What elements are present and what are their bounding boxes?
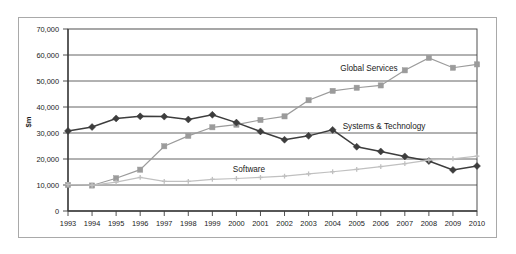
data-point — [185, 116, 192, 123]
data-point — [138, 167, 143, 172]
series-annotation: Systems & Technology — [343, 122, 427, 131]
x-tick-label: 2010 — [469, 219, 485, 228]
x-tick-label: 2008 — [421, 219, 437, 228]
data-point — [258, 117, 263, 122]
y-tick-label: 0 — [55, 207, 59, 216]
data-point — [282, 114, 287, 119]
data-point — [330, 88, 335, 93]
x-tick-label: 1994 — [84, 219, 100, 228]
y-tick-label: 40,000 — [36, 103, 59, 112]
data-point — [449, 166, 456, 173]
data-point — [306, 98, 311, 103]
series-annotation: Software — [233, 165, 266, 174]
x-tick-label: 2007 — [397, 219, 413, 228]
data-point — [210, 125, 215, 130]
data-point — [378, 83, 383, 88]
data-point — [162, 144, 167, 149]
plot-area-border — [68, 29, 477, 211]
x-tick-label: 1999 — [204, 219, 220, 228]
y-tick-label: 70,000 — [36, 25, 59, 34]
chart-figure: 010,00020,00030,00040,00050,00060,00070,… — [0, 0, 516, 254]
series-annotation: Global Services — [340, 64, 397, 73]
x-tick-label: 2000 — [228, 219, 244, 228]
x-tick-label: 1997 — [156, 219, 172, 228]
data-point — [450, 65, 455, 70]
x-tick-label: 2004 — [324, 219, 340, 228]
series-line — [68, 156, 477, 185]
data-point — [377, 148, 384, 155]
x-tick-label: 2003 — [300, 219, 316, 228]
line-chart: 010,00020,00030,00040,00050,00060,00070,… — [0, 0, 516, 254]
x-tick-label: 2005 — [348, 219, 364, 228]
x-tick-label: 1993 — [60, 219, 76, 228]
y-tick-label: 60,000 — [36, 51, 59, 60]
x-tick-label: 2002 — [276, 219, 292, 228]
y-tick-label: 20,000 — [36, 155, 59, 164]
y-tick-label: 30,000 — [36, 129, 59, 138]
data-point — [305, 132, 312, 139]
data-point — [426, 55, 431, 60]
y-tick-label: 10,000 — [36, 181, 59, 190]
x-tick-label: 1998 — [180, 219, 196, 228]
y-tick-label: 50,000 — [36, 77, 59, 86]
x-tick-label: 2006 — [373, 219, 389, 228]
data-point — [402, 68, 407, 73]
x-tick-label: 1996 — [132, 219, 148, 228]
x-tick-label: 2001 — [252, 219, 268, 228]
data-point — [209, 111, 216, 118]
data-point — [474, 62, 479, 67]
x-tick-label: 2009 — [445, 219, 461, 228]
data-point — [257, 128, 264, 135]
x-tick-label: 1995 — [108, 219, 124, 228]
data-point — [113, 115, 120, 122]
data-point — [186, 133, 191, 138]
data-point — [137, 113, 144, 120]
data-point — [161, 113, 168, 120]
series-systems-technology — [65, 111, 481, 173]
data-point — [474, 163, 481, 170]
y-axis-title: $m — [24, 116, 33, 127]
data-point — [354, 85, 359, 90]
data-point — [281, 136, 288, 143]
data-point — [89, 124, 96, 131]
